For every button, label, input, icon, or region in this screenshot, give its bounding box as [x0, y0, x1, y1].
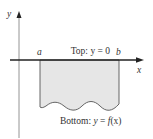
- x-axis-label: x: [136, 65, 142, 75]
- area-diagram: y x a b Top: y = 0 Bottom: y = f(x): [0, 0, 153, 139]
- top-boundary-label: Top: y = 0: [59, 46, 117, 56]
- top-label-prefix: Top:: [71, 46, 91, 56]
- bottom-label-arg: (x): [110, 116, 121, 127]
- endpoint-a-label: a: [37, 47, 42, 57]
- y-axis-arrow-icon: [17, 11, 22, 18]
- bottom-label-equals: =: [98, 116, 108, 126]
- top-label-equation: y = 0: [90, 46, 110, 56]
- bottom-boundary-label: Bottom: y = f(x): [48, 116, 129, 127]
- shaded-region: [40, 60, 119, 110]
- bottom-label-prefix: Bottom:: [60, 116, 94, 126]
- x-axis-arrow-icon: [136, 57, 144, 63]
- y-axis-label: y: [6, 9, 12, 19]
